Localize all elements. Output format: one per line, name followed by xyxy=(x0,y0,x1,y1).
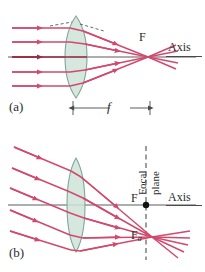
panel-b-label: (b) xyxy=(9,245,24,261)
lens-ray-diagram-figure: F Axis (a) f Focal plane F Axis Fa (b) xyxy=(0,0,205,272)
panel-b-off-axis-focal-letter: F xyxy=(131,228,138,242)
panel-b-diverging-rays xyxy=(152,231,190,258)
panel-b-axis-label: Axis xyxy=(168,190,191,205)
panel-b-axis-label-underline xyxy=(166,205,202,206)
panel-b-focal-point-dot xyxy=(143,202,149,208)
panel-b-off-axis-focal-label: Fa xyxy=(131,228,142,243)
panel-a-axis-label: Axis xyxy=(168,40,191,55)
panel-a-group xyxy=(8,16,196,115)
panel-b-focal-point-label: F xyxy=(131,191,138,206)
panel-b-focal-plane-label-line2: plane xyxy=(149,171,161,195)
panel-a-axis-label-underline xyxy=(166,56,202,57)
panel-b-refracted-ray-arrows xyxy=(80,177,118,251)
panel-a-focal-length-label: f xyxy=(107,99,111,115)
panel-a-label: (a) xyxy=(9,99,23,115)
panel-b-off-axis-focal-subscript: a xyxy=(138,234,142,243)
panel-a-focal-point-label: F xyxy=(139,30,146,45)
